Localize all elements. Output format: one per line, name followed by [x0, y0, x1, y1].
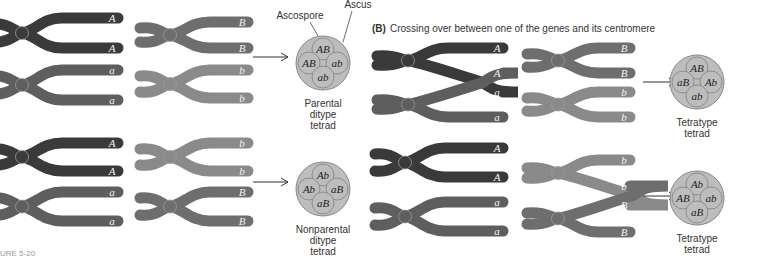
- spore-genotype: AB: [315, 43, 330, 55]
- centromere: [16, 151, 29, 164]
- allele-label: B: [621, 199, 628, 211]
- allele-label: a: [494, 86, 500, 98]
- spore-genotype: ab: [692, 90, 704, 102]
- allele-label: a: [494, 225, 500, 237]
- spore-genotype: ab: [332, 57, 344, 69]
- centromere: [399, 210, 412, 223]
- row-tetratype-1: AAaaBBbbABaBAbabTetratypetetrad: [377, 42, 724, 139]
- spore-genotype: aB: [331, 183, 344, 195]
- spore-genotype: ab: [318, 71, 330, 83]
- allele-label: a: [494, 111, 500, 123]
- row-nonparental-ditype: AAaabbBBAbAbaBaBNonparentalditypetetrad: [0, 137, 350, 257]
- allele-label: a: [109, 94, 115, 106]
- allele-label: A: [108, 12, 116, 24]
- allele-label: b: [621, 154, 627, 166]
- allele-label: a: [109, 64, 115, 76]
- ascospore: ab: [312, 66, 334, 88]
- spore-genotype: AB: [675, 192, 690, 204]
- allele-label: a: [494, 196, 500, 208]
- allele-label: A: [108, 165, 116, 177]
- spore-genotype: aB: [317, 197, 330, 209]
- allele-label: B: [621, 226, 628, 238]
- allele-label: B: [621, 42, 628, 54]
- allele-label: A: [108, 42, 116, 54]
- centromere: [164, 78, 177, 91]
- ascospore: aB: [686, 201, 708, 223]
- row-tetratype-2: AAaabbBBAbABabaBTetratypetetrad: [375, 142, 724, 255]
- allele-label: b: [239, 64, 245, 76]
- ascospore-label: Ascospore: [276, 10, 324, 21]
- allele-label: b: [621, 111, 627, 123]
- tetrad-type-label: tetrad: [310, 246, 336, 257]
- allele-label: b: [239, 165, 245, 177]
- allele-label: A: [493, 142, 501, 154]
- spore-genotype: AB: [689, 62, 704, 74]
- centromere: [16, 79, 29, 92]
- centromere: [402, 54, 415, 67]
- spore-genotype: Ab: [690, 178, 704, 190]
- spore-genotype: Ab: [316, 169, 330, 181]
- allele-label: A: [493, 42, 501, 54]
- ascospore-pointer: [310, 22, 318, 36]
- centromere: [402, 98, 415, 111]
- row-parental-ditype: AAaaBBbbABABababParentalditypetetradAsco…: [0, 0, 372, 131]
- centromere: [164, 151, 177, 164]
- centromere: [164, 200, 177, 213]
- spore-genotype: Ab: [302, 183, 316, 195]
- panel-b-tag: (B): [372, 23, 386, 34]
- tetrad-type-label: tetrad: [684, 128, 710, 139]
- tetrad-type-label: ditype: [310, 109, 337, 120]
- panel-b-header: (B)Crossing over between one of the gene…: [372, 23, 656, 34]
- centromere: [16, 27, 29, 40]
- tetrad-type-label: Parental: [304, 98, 341, 109]
- allele-label: a: [109, 215, 115, 227]
- panel-b-title: Crossing over between one of the genes a…: [390, 23, 656, 34]
- centromere: [552, 212, 565, 225]
- centromere: [399, 156, 412, 169]
- allele-label: B: [239, 16, 246, 28]
- centromere: [552, 167, 565, 180]
- allele-label: B: [621, 67, 628, 79]
- tetrad-type-label: tetrad: [684, 244, 710, 255]
- allele-label: A: [108, 137, 116, 149]
- ascospore: aB: [312, 192, 334, 214]
- allele-label: B: [239, 215, 246, 227]
- ascus-label: Ascus: [344, 0, 371, 10]
- tetrad-type-label: ditype: [310, 235, 337, 246]
- allele-label: b: [621, 86, 627, 98]
- centromere: [16, 200, 29, 213]
- tetrad-type-label: Tetratype: [676, 117, 718, 128]
- spore-genotype: aB: [677, 76, 690, 88]
- spore-genotype: AB: [301, 57, 316, 69]
- spore-genotype: aB: [691, 206, 704, 218]
- centromere: [164, 29, 177, 42]
- tetrad-type-label: Tetratype: [676, 233, 718, 244]
- allele-label: A: [493, 67, 501, 79]
- allele-label: a: [109, 186, 115, 198]
- allele-label: A: [493, 171, 501, 183]
- spore-genotype: Ab: [704, 76, 718, 88]
- centromere: [552, 54, 565, 67]
- figure-caption: URE 5-20: [0, 249, 36, 258]
- ascus-pointer: [343, 11, 352, 42]
- centromere: [552, 98, 565, 111]
- allele-label: b: [239, 137, 245, 149]
- allele-label: b: [239, 92, 245, 104]
- tetrad-type-label: tetrad: [310, 120, 336, 131]
- tetrad-diagram: AAaaBBbbABABababParentalditypetetradAsco…: [0, 0, 759, 258]
- allele-label: B: [239, 186, 246, 198]
- spore-genotype: ab: [706, 192, 718, 204]
- tetrad-type-label: Nonparental: [296, 224, 350, 235]
- allele-label: b: [621, 180, 627, 192]
- ascospore: ab: [686, 85, 708, 107]
- allele-label: B: [239, 42, 246, 54]
